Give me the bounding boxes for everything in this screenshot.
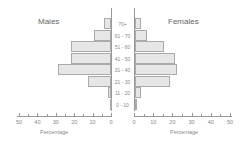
age-group-label: 11 - 20 (111, 90, 134, 96)
female-bar (135, 30, 147, 41)
x-tick-label: 40 (204, 119, 218, 125)
male-x-axis-label: Percentage (40, 129, 68, 135)
males-title: Males (38, 17, 59, 26)
x-tick (37, 113, 38, 116)
female-bar (135, 41, 164, 52)
male-bar (104, 18, 111, 29)
x-tick (93, 113, 94, 116)
x-tick-label: 30 (49, 119, 63, 125)
age-group-label: 70+ (111, 21, 134, 27)
x-tick-label: 10 (86, 119, 100, 125)
x-tick (111, 113, 112, 116)
female-x-axis-label: Percentage (170, 129, 198, 135)
x-tick (153, 113, 154, 116)
female-bar (135, 18, 141, 29)
male-bar (88, 76, 111, 87)
male-x-axis (17, 116, 112, 117)
x-minor-tick (220, 114, 221, 116)
x-minor-tick (144, 114, 145, 116)
population-pyramid-chart: Males Females 70+61 - 7051 - 6041 - 5031… (0, 0, 244, 143)
x-tick (211, 113, 212, 116)
x-tick-label: 10 (146, 119, 160, 125)
x-minor-tick (182, 114, 183, 116)
male-bar (58, 64, 111, 75)
x-minor-tick (47, 114, 48, 116)
age-group-label: 61 - 70 (111, 33, 134, 39)
females-title: Females (168, 17, 199, 26)
x-tick-label: 0 (104, 119, 118, 125)
female-x-axis (134, 116, 232, 117)
male-bar (71, 53, 111, 64)
x-minor-tick (102, 114, 103, 116)
female-bar (135, 53, 175, 64)
x-tick-label: 50 (12, 119, 26, 125)
x-minor-tick (163, 114, 164, 116)
x-minor-tick (201, 114, 202, 116)
x-tick (230, 113, 231, 116)
female-bar (135, 99, 137, 110)
x-minor-tick (28, 114, 29, 116)
female-bar (135, 64, 177, 75)
x-tick-label: 0 (127, 119, 141, 125)
age-group-label: 51 - 60 (111, 44, 134, 50)
x-tick (172, 113, 173, 116)
x-tick-label: 20 (165, 119, 179, 125)
x-tick (19, 113, 20, 116)
age-group-label: 41 - 50 (111, 56, 134, 62)
age-group-label: 31 - 40 (111, 67, 134, 73)
x-minor-tick (65, 114, 66, 116)
male-bar (94, 30, 111, 41)
female-bar (135, 87, 141, 98)
x-tick-label: 20 (67, 119, 81, 125)
age-group-label: 21 - 30 (111, 79, 134, 85)
x-tick-label: 30 (185, 119, 199, 125)
female-bar (135, 76, 170, 87)
male-bar (71, 41, 111, 52)
x-tick (56, 113, 57, 116)
x-tick (192, 113, 193, 116)
x-tick (74, 113, 75, 116)
x-tick (134, 113, 135, 116)
x-tick-label: 50 (223, 119, 237, 125)
age-group-label: 0 - 10 (111, 102, 134, 108)
x-minor-tick (83, 114, 84, 116)
x-tick-label: 40 (30, 119, 44, 125)
